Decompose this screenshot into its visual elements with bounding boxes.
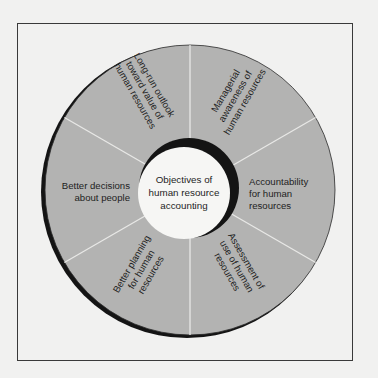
- center-label-line-1: Objectives of: [156, 174, 213, 185]
- segment-label-line-2: for human: [249, 188, 292, 199]
- segment-label-line-2: about people: [75, 192, 130, 203]
- segment-label-line-1: Better decisions: [62, 180, 130, 191]
- segment-label-line-3: resources: [249, 200, 291, 211]
- objectives-wheel-diagram: Objectives of human resource accounting …: [0, 0, 378, 378]
- center-label-line-3: accounting: [160, 200, 207, 211]
- center-label-line-2: human resource: [149, 187, 220, 198]
- segment-label-line-1: Accountability: [249, 176, 308, 187]
